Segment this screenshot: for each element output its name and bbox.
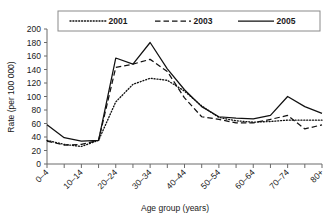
x-tick-label: 60–64 — [233, 167, 257, 191]
data-series-group — [47, 43, 322, 147]
y-tick-label: 120 — [27, 78, 41, 88]
x-tick-label: 70–74 — [267, 167, 291, 191]
chart-container: 020406080100120140160180200 0–410–1420–2… — [0, 0, 332, 220]
x-tick-label: 50–54 — [199, 167, 223, 191]
x-tick-label: 0–4 — [33, 167, 50, 184]
y-tick-label: 40 — [32, 132, 42, 142]
y-tick-label: 180 — [27, 38, 41, 48]
legend-label-2001: 2001 — [109, 16, 128, 26]
y-tick-label: 60 — [32, 119, 42, 129]
x-axis-title: Age group (years) — [141, 203, 209, 213]
y-tick-label: 20 — [32, 146, 42, 156]
x-tick-label: 80+ — [308, 167, 325, 184]
x-tick-label: 10–14 — [61, 167, 85, 191]
y-axis: 020406080100120140160180200 — [27, 24, 47, 169]
y-tick-label: 140 — [27, 65, 41, 75]
rate-by-age-group-line-chart: 020406080100120140160180200 0–410–1420–2… — [0, 0, 332, 220]
y-tick-label: 0 — [36, 159, 41, 169]
series-line-2005 — [47, 43, 322, 142]
legend-label-2005: 2005 — [277, 16, 296, 26]
x-tick-label: 40–44 — [164, 167, 188, 191]
legend-label-2003: 2003 — [194, 16, 213, 26]
x-tick-label: 20–24 — [95, 167, 119, 191]
chart-legend: 200120032005 — [58, 11, 320, 31]
y-tick-label: 160 — [27, 51, 41, 61]
y-axis-title: Rate (per 100 000) — [6, 61, 16, 133]
y-tick-label: 200 — [27, 24, 41, 34]
x-tick-label: 30–34 — [130, 167, 154, 191]
x-axis: 0–410–1420–2430–3440–4450–5460–6470–7480… — [33, 164, 325, 191]
series-line-2001 — [47, 78, 322, 146]
y-tick-label: 100 — [27, 92, 41, 102]
series-line-2003 — [47, 59, 322, 145]
y-tick-label: 80 — [32, 105, 42, 115]
